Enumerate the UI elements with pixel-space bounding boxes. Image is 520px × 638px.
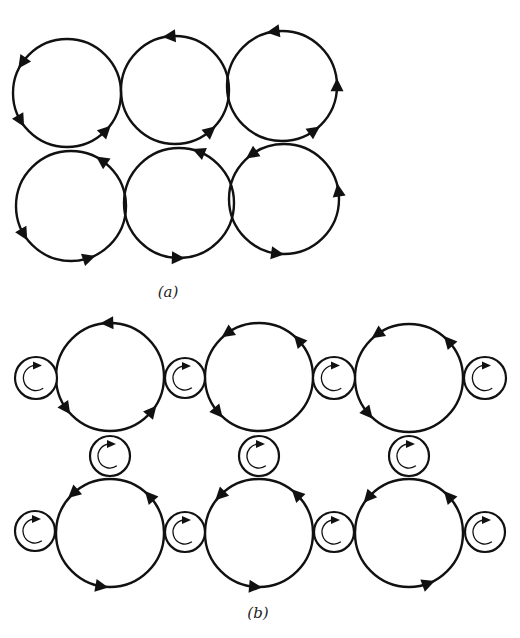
vortex: [12, 39, 121, 147]
idle-wheel-vortex: [464, 357, 506, 399]
panel-b-caption: (b): [247, 604, 268, 622]
direction-arrow-icon: [96, 156, 110, 169]
diagram-canvas: [0, 0, 520, 638]
large-vortex: [56, 479, 164, 592]
idle-wheel-vortex: [15, 357, 57, 399]
vortex: [121, 29, 229, 144]
large-vortex: [355, 479, 463, 592]
direction-arrow-icon: [333, 184, 346, 198]
idle-wheel-vortex: [465, 512, 505, 552]
large-vortex: [56, 316, 164, 431]
direction-arrow-icon: [163, 29, 177, 42]
direction-arrow-icon: [81, 254, 95, 266]
direction-arrow-icon: [267, 24, 281, 37]
panel-a-caption: (a): [158, 283, 179, 301]
vortex-diagram: (a) (b): [0, 0, 520, 638]
direction-arrow-icon: [294, 335, 308, 349]
direction-arrow-icon: [68, 485, 82, 499]
idle-wheel-vortex: [165, 512, 205, 552]
idle-wheel-vortex: [90, 436, 130, 476]
vortex-circle: [229, 144, 339, 254]
direction-arrow-icon: [372, 325, 386, 338]
panel-a-touching-vortices: [12, 24, 346, 266]
direction-arrow-icon: [57, 400, 70, 414]
idle-wheel-vortex: [15, 511, 55, 551]
direction-arrow-icon: [222, 324, 236, 337]
vortex-circle: [16, 151, 126, 261]
idle-wheel-vortex: [314, 512, 354, 552]
direction-arrow-icon: [249, 580, 263, 593]
large-vortex: [205, 479, 313, 593]
idle-wheel-vortex: [389, 436, 429, 476]
idle-wheel-vortex: [165, 358, 205, 398]
panel-b-vortices-with-idle-wheels: [15, 316, 506, 592]
vortex: [227, 24, 344, 141]
direction-arrow-icon: [202, 126, 216, 139]
direction-arrow-icon: [145, 491, 159, 505]
vortex-circle: [124, 148, 234, 258]
direction-arrow-icon: [172, 251, 185, 264]
direction-arrow-icon: [444, 491, 458, 505]
large-vortex: [205, 323, 313, 431]
vortex: [229, 144, 346, 259]
direction-arrow-icon: [359, 405, 372, 419]
idle-wheel-vortex: [313, 357, 355, 399]
direction-arrow-icon: [246, 146, 260, 159]
direction-arrow-icon: [444, 336, 458, 350]
vortex-circle: [227, 31, 337, 141]
direction-arrow-icon: [18, 54, 31, 68]
direction-arrow-icon: [306, 127, 320, 140]
direction-arrow-icon: [100, 316, 113, 329]
direction-arrow-icon: [209, 404, 222, 418]
direction-arrow-icon: [270, 246, 284, 259]
vortex: [124, 148, 234, 264]
idle-wheel-vortex: [239, 436, 279, 476]
large-vortex: [355, 324, 463, 432]
direction-arrow-icon: [331, 78, 344, 91]
direction-arrow-icon: [94, 579, 108, 592]
vortex: [15, 151, 126, 266]
